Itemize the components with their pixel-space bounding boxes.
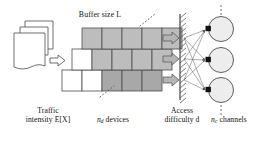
access-barrier-wall — [180, 13, 186, 103]
channel-circle-2 — [209, 48, 234, 73]
channel-connector-2 — [206, 57, 211, 62]
devices-count-label: nd devices — [78, 116, 148, 125]
channel-connector-3 — [206, 87, 211, 92]
buffer-size-label: Buffer size L — [52, 11, 148, 20]
input-arrow-icon — [50, 55, 65, 66]
channels-count-label: nc channels — [200, 116, 258, 125]
channel-connection-arrows — [184, 30, 205, 90]
channel-connector-1 — [206, 26, 211, 31]
channel-nodes — [206, 17, 234, 103]
buffer-output-arrows — [163, 32, 179, 86]
buffer-row-2 — [72, 49, 172, 70]
channel-circle-3 — [209, 78, 234, 103]
output-arrow-row-3 — [163, 74, 179, 86]
channel-circle-1 — [209, 17, 234, 42]
document-stack-icon — [14, 21, 53, 69]
queueing-system-diagram: Buffer size L Traffic intensity E[X] nd … — [0, 0, 258, 144]
